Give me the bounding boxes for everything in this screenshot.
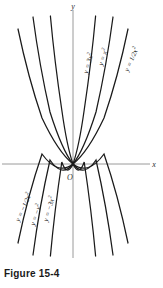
origin-label: O bbox=[67, 173, 73, 182]
parabola-plot: x y O y = 3x2 y = x2 y = 1/2x2 y = −1/2x… bbox=[0, 0, 163, 262]
y-axis-label: y bbox=[70, 2, 75, 11]
plot-svg: x y O bbox=[0, 0, 163, 262]
figure-container: x y O y = 3x2 y = x2 y = 1/2x2 y = −1/2x… bbox=[0, 0, 163, 288]
x-axis-label: x bbox=[151, 160, 156, 169]
figure-caption: Figure 15-4 bbox=[4, 268, 159, 279]
